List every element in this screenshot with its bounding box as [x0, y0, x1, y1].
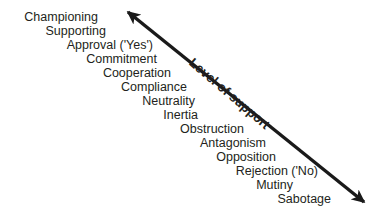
scale-label: Obstruction	[180, 122, 244, 136]
scale-label: Sabotage	[277, 192, 331, 206]
scale-label: Approval ('Yes')	[67, 38, 153, 52]
scale-label: Rejection ('No)	[236, 164, 318, 178]
scale-label: Opposition	[216, 150, 276, 164]
scale-label: Supporting	[46, 24, 106, 38]
scale-label: Commitment	[86, 52, 157, 66]
scale-label: Inertia	[163, 108, 198, 122]
scale-label: Neutrality	[142, 94, 195, 108]
scale-label: Antagonism	[200, 136, 266, 150]
scale-label: Championing	[24, 10, 98, 24]
support-scale-list: ChampioningSupportingApproval ('Yes')Com…	[0, 0, 389, 224]
scale-label: Compliance	[121, 80, 187, 94]
scale-label: Cooperation	[103, 66, 171, 80]
diagram-canvas: Level of support ChampioningSupportingAp…	[0, 0, 389, 224]
scale-label: Mutiny	[256, 178, 293, 192]
